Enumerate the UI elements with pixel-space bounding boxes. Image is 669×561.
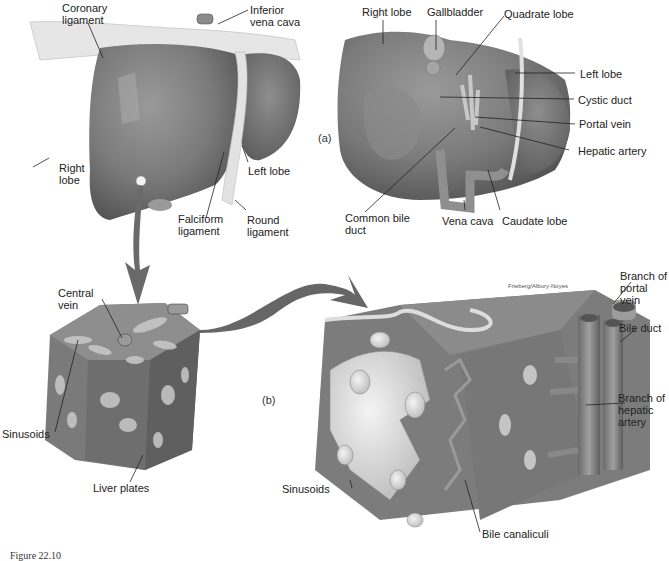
figure-caption: Figure 22.10 [10, 550, 61, 561]
label-left-lobe-anterior: Left lobe [248, 165, 290, 177]
lobule-block [45, 303, 200, 470]
label-left-lobe-inferior: Left lobe [580, 68, 622, 80]
label-common-bile-duct: Common bile duct [345, 212, 410, 236]
label-inferior-vena-cava: Inferior vena cava [250, 4, 300, 28]
anterior-liver [30, 14, 300, 220]
label-central-vein: Central vein [58, 287, 93, 311]
label-portal-vein: Portal vein [579, 118, 631, 130]
label-bile-canaliculi: Bile canaliculi [482, 528, 549, 540]
illustrator-credit: Frieberg/Albury-Noyes [508, 283, 568, 289]
label-round-ligament: Round ligament [247, 214, 289, 238]
panel-a-tag: (a) [318, 132, 331, 144]
panel-b-tag: (b) [262, 394, 275, 406]
label-quadrate-lobe: Quadrate lobe [504, 8, 574, 20]
detail-block [315, 290, 650, 527]
label-right-lobe-inferior: Right lobe [362, 6, 412, 18]
label-gallbladder: Gallbladder [427, 6, 483, 18]
label-hepatic-artery: Hepatic artery [578, 145, 646, 157]
label-bile-duct: Bile duct [619, 322, 661, 334]
label-falciform-ligament: Falciform ligament [178, 213, 223, 237]
label-branch-of-portal-vein: Branch of portal vein [620, 270, 667, 306]
label-caudate-lobe: Caudate lobe [502, 215, 567, 227]
label-coronary-ligament: Coronary ligament [62, 2, 107, 26]
label-sinusoids-lobule: Sinusoids [2, 428, 50, 440]
label-vena-cava: Vena cava [442, 215, 493, 227]
label-branch-of-hepatic-artery: Branch of hepatic artery [618, 392, 665, 428]
label-cystic-duct: Cystic duct [578, 94, 632, 106]
label-liver-plates: Liver plates [93, 482, 149, 494]
label-right-lobe-anterior: Right lobe [59, 162, 85, 186]
inferior-liver [338, 32, 571, 208]
label-sinusoids-detail: Sinusoids [282, 483, 330, 495]
